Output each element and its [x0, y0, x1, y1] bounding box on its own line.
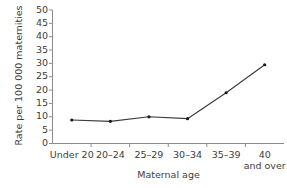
- x-tick-label-line: 40: [259, 149, 271, 160]
- x-tick-label: 40and over: [244, 149, 286, 171]
- x-axis-tick-labels: Under 2020–2425–2930–3435–3940and over: [0, 0, 287, 188]
- x-tick-label-line: 30–34: [173, 149, 202, 160]
- x-tick-label-line: 20–24: [96, 149, 125, 160]
- x-tick-label: 35–39: [212, 149, 241, 160]
- x-tick-label: 25–29: [134, 149, 163, 160]
- x-tick-label: 20–24: [96, 149, 125, 160]
- x-tick-label: Under 20: [50, 149, 94, 160]
- x-tick-label-line: Under 20: [50, 149, 94, 160]
- maternal-mortality-line-chart: 05101520253035404550 Under 2020–2425–293…: [0, 0, 287, 188]
- x-tick-label: 30–34: [173, 149, 202, 160]
- y-axis-title: Rate per 100 000 maternities: [13, 3, 27, 148]
- x-tick-label-line: 35–39: [212, 149, 241, 160]
- x-tick-label-line: 25–29: [134, 149, 163, 160]
- x-axis-title: Maternal age: [53, 169, 284, 180]
